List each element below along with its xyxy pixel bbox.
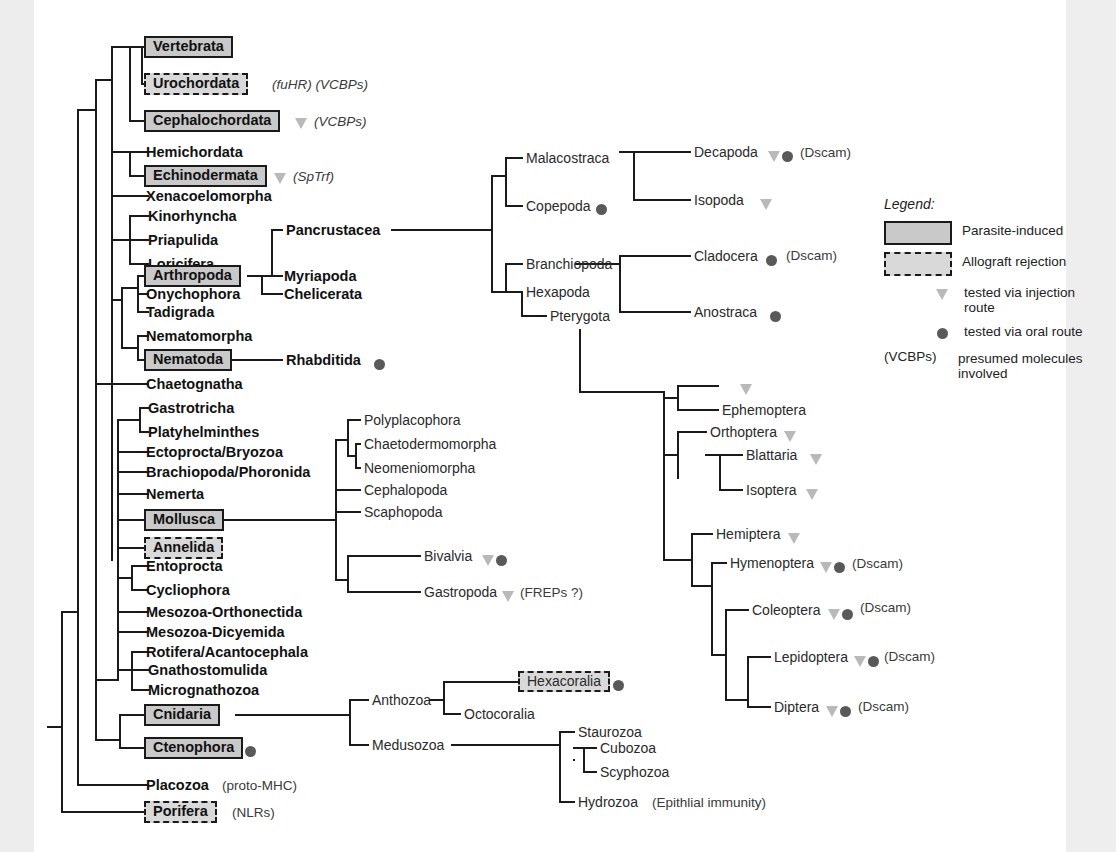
taxon-hexapoda[interactable]: Hexapoda <box>526 285 590 299</box>
taxon-malacostraca[interactable]: Malacostraca <box>526 151 609 165</box>
circle-icon <box>766 255 777 266</box>
taxon-isoptera[interactable]: Isoptera <box>746 483 797 497</box>
taxon-bivalvia[interactable]: Bivalvia <box>424 549 472 563</box>
taxon-annelida[interactable]: Annelida <box>144 537 223 559</box>
taxon-medusozoa[interactable]: Medusozoa <box>372 738 444 752</box>
taxon-rotifera-acantocephala[interactable]: Rotifera/Acantocephala <box>146 645 308 660</box>
taxon-diptera[interactable]: Diptera <box>774 700 819 714</box>
taxon-cephalopoda[interactable]: Cephalopoda <box>364 483 447 497</box>
taxon-cephalochordata[interactable]: Cephalochordata <box>144 110 280 132</box>
taxon-placozoa[interactable]: Placozoa <box>146 778 209 793</box>
markers-cladocera <box>766 251 779 269</box>
circle-icon <box>613 680 624 691</box>
taxon-ectoprocta-bryozoa[interactable]: Ectoprocta/Bryozoa <box>146 445 283 460</box>
taxon-hymenoptera[interactable]: Hymenoptera <box>730 556 814 570</box>
legend-row-allograft-rejection: Allograft rejection <box>884 252 1094 276</box>
circle-icon <box>496 555 507 566</box>
taxon-mesozoa-orthonectida[interactable]: Mesozoa-Orthonectida <box>146 605 302 620</box>
taxon-polyplacophora[interactable]: Polyplacophora <box>364 413 461 427</box>
taxon-anthozoa[interactable]: Anthozoa <box>372 693 431 707</box>
marker-cephalochordata <box>295 114 309 132</box>
taxon-pancrustacea[interactable]: Pancrustacea <box>286 223 380 238</box>
taxon-octocoralia[interactable]: Octocoralia <box>464 707 535 721</box>
taxon-nematomorpha[interactable]: Nematomorpha <box>146 329 252 344</box>
taxon-mollusca[interactable]: Mollusca <box>144 509 224 531</box>
taxon-chaetodermomorpha[interactable]: Chaetodermomorpha <box>364 437 496 451</box>
taxon-micrognathozoa[interactable]: Micrognathozoa <box>148 683 259 698</box>
taxon-chelicerata[interactable]: Chelicerata <box>284 287 362 302</box>
circle-icon <box>596 204 607 215</box>
markers-hymenoptera <box>820 558 847 576</box>
taxon-gastropoda[interactable]: Gastropoda <box>424 585 497 599</box>
taxon-myriapoda[interactable]: Myriapoda <box>284 269 357 284</box>
note-echinodermata: (SpTrf) <box>293 170 334 184</box>
taxon-hemichordata[interactable]: Hemichordata <box>146 145 243 160</box>
taxon-platyhelminthes[interactable]: Platyhelminthes <box>148 425 259 440</box>
taxon-priapulida[interactable]: Priapulida <box>148 233 218 248</box>
taxon-blattaria[interactable]: Blattaria <box>746 448 797 462</box>
taxon-arthropoda[interactable]: Arthropoda <box>144 265 241 287</box>
note-hydrozoa: (Epithlial immunity) <box>652 796 766 810</box>
markers-decapoda <box>768 147 795 165</box>
marker-rhabditida <box>374 355 387 373</box>
taxon-brachiopoda-phoronida[interactable]: Brachiopoda/Phoronida <box>146 465 310 480</box>
taxon-cladocera[interactable]: Cladocera <box>694 249 758 263</box>
taxon-kinorhyncha[interactable]: Kinorhyncha <box>148 209 237 224</box>
taxon-staurozoa[interactable]: Staurozoa <box>578 725 642 739</box>
taxon-gnathostomulida[interactable]: Gnathostomulida <box>148 663 267 678</box>
taxon-porifera[interactable]: Porifera <box>144 801 217 823</box>
triangle-icon <box>854 656 866 667</box>
taxon-branchiopoda[interactable]: Branchiopoda <box>526 257 612 271</box>
markers-gastropoda <box>502 587 516 605</box>
triangle-icon <box>820 562 832 573</box>
taxon-isopoda[interactable]: Isopoda <box>694 193 744 207</box>
taxon-onychophora[interactable]: Onychophora <box>146 287 240 302</box>
taxon-gastrotricha[interactable]: Gastrotricha <box>148 401 234 416</box>
taxon-copepoda[interactable]: Copepoda <box>526 199 591 213</box>
triangle-icon-wrap <box>884 283 954 303</box>
note-diptera: (Dscam) <box>858 700 909 714</box>
taxon-vertebrata[interactable]: Vertebrata <box>144 36 233 58</box>
taxon-scyphozoa[interactable]: Scyphozoa <box>600 765 669 779</box>
note-placozoa: (proto-MHC) <box>222 779 297 793</box>
taxon-cnidaria[interactable]: Cnidaria <box>144 704 220 726</box>
taxon-orthoptera[interactable]: Orthoptera <box>710 425 777 439</box>
triangle-icon <box>826 706 838 717</box>
taxon-neomeniomorpha[interactable]: Neomeniomorpha <box>364 461 475 475</box>
markers-anostraca <box>770 307 783 325</box>
taxon-hexacoralia[interactable]: Hexacoralia <box>518 671 610 692</box>
circle-icon-wrap <box>884 322 954 342</box>
taxon-cubozoa[interactable]: Cubozoa <box>600 741 656 755</box>
taxon-mesozoa-dicyemida[interactable]: Mesozoa-Dicyemida <box>146 625 285 640</box>
dashed-box-swatch-icon <box>884 252 952 276</box>
taxon-cycliophora[interactable]: Cycliophora <box>146 583 230 598</box>
taxon-anostraca[interactable]: Anostraca <box>694 305 757 319</box>
taxon-chaetognatha[interactable]: Chaetognatha <box>146 377 243 392</box>
taxon-pterygota[interactable]: Pterygota <box>550 309 610 323</box>
circle-icon <box>842 609 853 620</box>
taxon-nemerta[interactable]: Nemerta <box>146 487 204 502</box>
note-lepidoptera: (Dscam) <box>884 650 935 664</box>
taxon-xenacoelomorpha[interactable]: Xenacoelomorpha <box>146 189 272 204</box>
taxon-entoprocta[interactable]: Entoprocta <box>146 559 223 574</box>
taxon-decapoda[interactable]: Decapoda <box>694 145 758 159</box>
cladogram-stage: Vertebrata Urochordata (fuHR) (VCBPs) Ce… <box>0 0 1116 852</box>
note-urochordata: (fuHR) (VCBPs) <box>272 78 368 92</box>
note-porifera: (NLRs) <box>232 806 275 820</box>
taxon-ctenophora[interactable]: Ctenophora <box>144 737 243 759</box>
taxon-coleoptera[interactable]: Coleoptera <box>752 603 821 617</box>
taxon-echinodermata[interactable]: Echinodermata <box>144 165 267 187</box>
triangle-icon <box>740 384 752 395</box>
taxon-hemiptera[interactable]: Hemiptera <box>716 527 781 541</box>
triangle-icon <box>760 199 772 210</box>
taxon-lepidoptera[interactable]: Lepidoptera <box>774 650 848 664</box>
taxon-urochordata[interactable]: Urochordata <box>144 73 248 95</box>
taxon-rhabditida[interactable]: Rhabditida <box>286 353 361 368</box>
taxon-tadigrada[interactable]: Tadigrada <box>146 305 214 320</box>
circle-icon <box>782 151 793 162</box>
legend-label-injection-route: tested via injection route <box>964 283 1089 315</box>
taxon-ephemoptera[interactable]: Ephemoptera <box>722 403 806 417</box>
taxon-nematoda[interactable]: Nematoda <box>144 349 232 371</box>
taxon-scaphopoda[interactable]: Scaphopoda <box>364 505 443 519</box>
taxon-hydrozoa[interactable]: Hydrozoa <box>578 795 638 809</box>
